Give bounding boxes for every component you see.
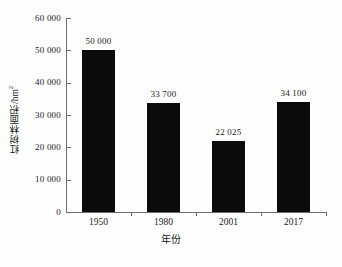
y-axis-title: 红树林面积/hm2 — [4, 60, 18, 180]
y-axis-tick-label: 50 000 — [35, 46, 61, 55]
x-axis-title-text: 年份 — [161, 234, 181, 245]
bar-value-label: 50 000 — [69, 37, 129, 46]
y-axis-tick — [66, 212, 71, 213]
y-axis-tick — [66, 50, 71, 51]
y-axis-tick — [66, 147, 71, 148]
x-axis-tick — [261, 212, 262, 216]
y-axis-tick-label: 60 000 — [35, 14, 61, 23]
x-axis-tick — [131, 212, 132, 216]
bar-value-label: 33 700 — [134, 90, 194, 99]
x-axis-tick-label: 1950 — [69, 217, 129, 228]
y-axis-title-superscript: 2 — [7, 86, 14, 89]
bar-chart-figure: 010 00020 00030 00040 00050 00060 000 50… — [0, 0, 342, 267]
x-axis-tick — [196, 212, 197, 216]
bar-value-label: 22 025 — [199, 128, 259, 137]
x-axis-tick-label: 2001 — [199, 217, 259, 228]
y-axis-tick — [66, 115, 71, 116]
y-axis-tick-label: 40 000 — [35, 78, 61, 87]
bar — [212, 141, 245, 212]
y-axis-title-text: 红树林面积/hm — [10, 89, 20, 154]
bar-value-label: 34 100 — [264, 89, 324, 98]
bar — [147, 103, 180, 212]
x-axis-tick-label: 1980 — [134, 217, 194, 228]
x-axis-title: 年份 — [0, 234, 342, 246]
y-axis-tick-label: 0 — [56, 208, 61, 217]
bar — [82, 50, 115, 212]
y-axis-tick-label: 10 000 — [35, 175, 61, 184]
x-axis-tick — [326, 212, 327, 216]
y-axis-tick — [66, 83, 71, 84]
y-axis-tick — [66, 180, 71, 181]
x-axis-tick-label: 2017 — [264, 217, 324, 228]
y-axis-tick-label: 20 000 — [35, 143, 61, 152]
y-axis-tick-label: 30 000 — [35, 111, 61, 120]
bar — [277, 102, 310, 212]
y-axis-tick — [66, 18, 71, 19]
